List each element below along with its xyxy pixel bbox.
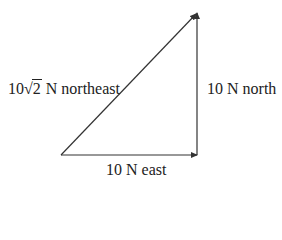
east-vector-label: 10 N east bbox=[106, 161, 166, 179]
square-root-expression: √2 bbox=[24, 80, 42, 98]
northeast-suffix: N northeast bbox=[42, 80, 120, 97]
north-vector-label: 10 N north bbox=[207, 80, 276, 98]
radicand: 2 bbox=[32, 79, 42, 97]
northeast-coefficient: 10 bbox=[8, 80, 24, 97]
northeast-vector-label: 10√2 N northeast bbox=[8, 80, 120, 98]
